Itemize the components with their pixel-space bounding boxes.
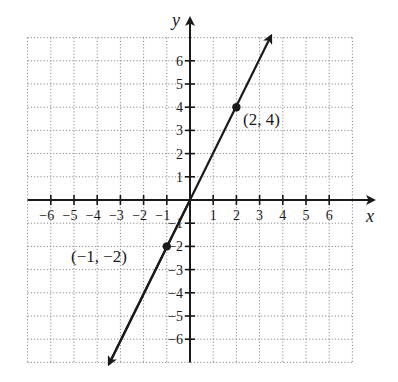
y-tick-label: 3 — [176, 123, 183, 138]
point-label-b: (2, 4) — [243, 110, 280, 129]
point-label-a: (−1, −2) — [71, 247, 127, 266]
x-tick-label: −5 — [63, 208, 78, 223]
x-tick-label: 1 — [210, 208, 217, 223]
x-tick-label: 4 — [279, 208, 286, 223]
x-axis-label: x — [365, 206, 374, 226]
x-tick-label: 6 — [326, 208, 333, 223]
x-tick-label: −3 — [109, 208, 124, 223]
x-tick-label: 2 — [233, 208, 240, 223]
data-point — [232, 103, 240, 111]
x-tick-label: 5 — [303, 208, 310, 223]
x-tick-label: −2 — [132, 208, 147, 223]
y-tick-label: 6 — [176, 54, 183, 69]
y-tick-label: 4 — [176, 100, 183, 115]
y-tick-label: −3 — [168, 263, 183, 278]
x-tick-label: 3 — [256, 208, 263, 223]
y-tick-label: −5 — [168, 309, 183, 324]
x-tick-label: −6 — [39, 208, 54, 223]
y-tick-label: −4 — [168, 286, 183, 301]
coordinate-plane: −6−5−4−3−2−1123456−6−5−4−3−2−1123456 y x… — [0, 0, 398, 382]
axes — [28, 18, 374, 362]
y-axis-label: y — [170, 10, 180, 30]
data-point — [163, 242, 171, 250]
y-tick-label: −6 — [168, 332, 183, 347]
x-tick-label: −4 — [86, 208, 101, 223]
y-tick-label: 1 — [176, 170, 183, 185]
y-tick-label: 2 — [176, 147, 183, 162]
y-tick-label: 5 — [176, 77, 183, 92]
